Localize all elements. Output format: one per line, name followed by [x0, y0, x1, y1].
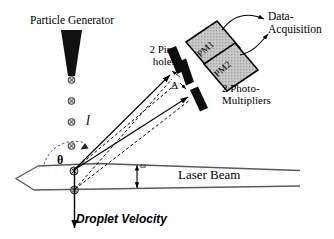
photomultipliers-label: 2 Photo- Multipliers: [222, 82, 271, 107]
pinhole-plate: [190, 87, 208, 112]
delta-label: Δ: [171, 80, 178, 92]
theta-angle-arc: [44, 141, 89, 164]
droplet-stream: [68, 77, 78, 194]
theta-angle-label: θ: [57, 154, 63, 167]
photomultiplier-boxes: [186, 21, 258, 91]
figure-canvas: Particle Generator 2 Pin- holes Data- Ac…: [0, 0, 334, 239]
droplet: [68, 98, 75, 105]
droplet: [68, 119, 75, 126]
pinholes-label: 2 Pin- holes: [130, 44, 176, 68]
droplet-velocity-label: Droplet Velocity: [76, 213, 167, 226]
droplet: [68, 77, 75, 84]
droplet: [68, 143, 75, 150]
particle-generator-nozzle: [61, 30, 82, 76]
particle-generator-label: Particle Generator: [30, 14, 114, 26]
distance-l-label: l: [86, 113, 90, 128]
laser-beam-label: Laser Beam: [178, 168, 240, 182]
data-acquisition-label: Data- Acquisition: [268, 10, 322, 36]
laser-beam: [16, 164, 300, 191]
optical-rays-dashed: [74, 79, 190, 189]
diagram-svg: [0, 0, 334, 239]
omega-label: ω: [140, 161, 146, 171]
